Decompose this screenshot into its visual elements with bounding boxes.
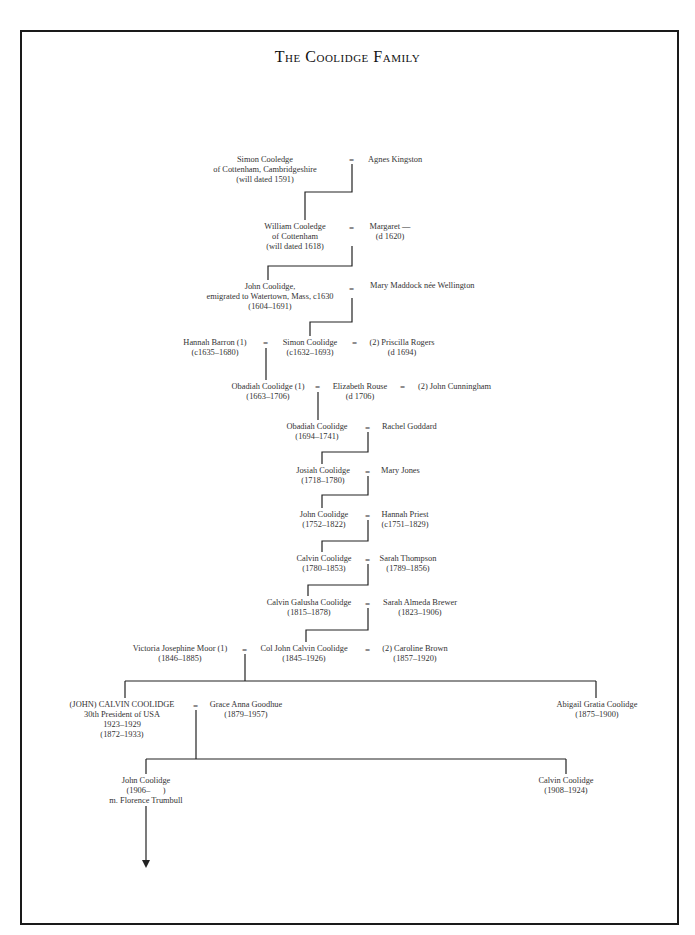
marriage-sign: = — [349, 223, 354, 233]
marriage-sign: = — [193, 701, 198, 711]
person-col-john-calvin-coolidge: Col John Calvin Coolidge (1845–1926) — [256, 644, 352, 664]
arrow-down-icon — [142, 860, 150, 868]
marriage-sign: = — [352, 338, 357, 348]
person-josiah-coolidge: Josiah Coolidge (1718–1780) — [292, 466, 354, 486]
person-william-cooledge: William Cooledge of Cottenham (will date… — [250, 222, 340, 252]
person-hannah-barron: Hannah Barron (1) (c1635–1680) — [180, 338, 250, 358]
person-mary-maddock: Mary Maddock née Wellington — [370, 281, 475, 291]
person-john-coolidge-1906: John Coolidge (1906– ) m. Florence Trumb… — [106, 776, 186, 806]
person-victoria-josephine-moor: Victoria Josephine Moor (1) (1846–1885) — [128, 644, 232, 664]
marriage-sign: = — [349, 155, 354, 165]
marriage-sign: = — [349, 284, 354, 294]
person-margaret: Margaret — (d 1620) — [365, 222, 415, 242]
person-caroline-brown: (2) Caroline Brown (1857–1920) — [380, 644, 450, 664]
person-grace-anna-goodhue: Grace Anna Goodhue (1879–1957) — [208, 700, 284, 720]
person-obadiah-coolidge-1663: Obadiah Coolidge (1) (1663–1706) — [228, 382, 308, 402]
marriage-sign: = — [365, 511, 370, 521]
person-agnes-kingston: Agnes Kingston — [368, 155, 422, 165]
person-hannah-priest: Hannah Priest (c1751–1829) — [378, 510, 432, 530]
person-calvin-coolidge-1908: Calvin Coolidge (1908–1924) — [534, 776, 598, 796]
person-simon-coolidge: Simon Coolidge (c1632–1693) — [280, 338, 340, 358]
person-calvin-galusha-coolidge: Calvin Galusha Coolidge (1815–1878) — [262, 598, 356, 618]
person-mary-jones: Mary Jones — [381, 466, 420, 476]
person-calvin-coolidge-1780: Calvin Coolidge (1780–1853) — [292, 554, 356, 574]
person-john-cunningham: (2) John Cunningham — [418, 382, 491, 392]
marriage-sign: = — [263, 338, 268, 348]
marriage-sign: = — [365, 555, 370, 565]
marriage-sign: = — [365, 645, 370, 655]
person-elizabeth-rouse: Elizabeth Rouse (d 1706) — [330, 382, 390, 402]
person-john-coolidge-1752: John Coolidge (1752–1822) — [296, 510, 352, 530]
person-simon-cooledge: Simon Cooledge of Cottenham, Cambridgesh… — [200, 155, 330, 185]
person-sarah-almeda-brewer: Sarah Almeda Brewer (1823–1906) — [380, 598, 460, 618]
person-john-coolidge-emigrant: John Coolidge, emigrated to Watertown, M… — [195, 282, 345, 312]
marriage-sign: = — [365, 423, 370, 433]
person-priscilla-rogers: (2) Priscilla Rogers (d 1694) — [367, 338, 437, 358]
person-calvin-coolidge-president: (JOHN) CALVIN COOLIDGE 30th President of… — [62, 700, 182, 740]
marriage-sign: = — [400, 382, 405, 392]
person-rachel-goddard: Rachel Goddard — [382, 422, 437, 432]
person-abigail-gratia-coolidge: Abigail Gratia Coolidge (1875–1900) — [548, 700, 646, 720]
marriage-sign: = — [315, 382, 320, 392]
marriage-sign: = — [365, 467, 370, 477]
person-sarah-thompson: Sarah Thompson (1789–1856) — [378, 554, 438, 574]
marriage-sign: = — [242, 645, 247, 655]
person-obadiah-coolidge-1694: Obadiah Coolidge (1694–1741) — [285, 422, 349, 442]
marriage-sign: = — [365, 599, 370, 609]
